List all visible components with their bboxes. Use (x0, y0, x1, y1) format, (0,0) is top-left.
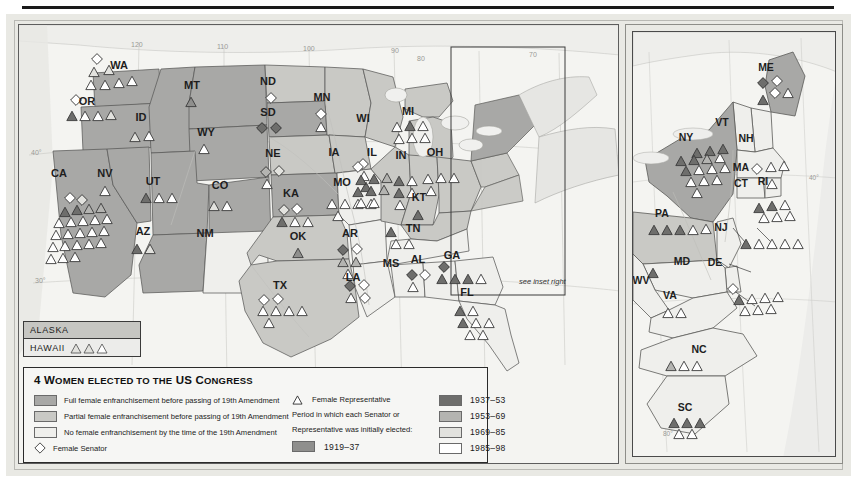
legend-item-representative: Female Representative (292, 392, 422, 407)
legend-column-symbols: Female Representative Period in which ea… (292, 392, 422, 454)
state-label-vt: VT (715, 116, 729, 128)
legend-title-text: WOMEN ELECTED TO THE US CONGRESS (44, 374, 253, 386)
state-label-sc: SC (678, 401, 693, 413)
svg-text:90: 90 (391, 47, 399, 54)
state-label-tx: TX (273, 279, 288, 291)
svg-text:70: 70 (529, 51, 537, 58)
legend-label-none: No female enfranchisement by the time of… (64, 428, 277, 437)
legend-item-none: No female enfranchisement by the time of… (34, 424, 284, 440)
map-page: 120 110 100 90 80 70 40° 30° (0, 0, 857, 483)
svg-text:30°: 30° (35, 277, 46, 284)
state-label-ca: CA (51, 167, 67, 179)
legend-label-1937-53: 1937–53 (470, 395, 506, 405)
state-label-ri: RI (758, 175, 769, 187)
top-rule (22, 6, 834, 9)
state-label-fl: FL (460, 286, 474, 298)
state-label-ar: AR (342, 227, 358, 239)
legend-label-full: Full female enfranchisement before passi… (64, 396, 279, 405)
triangle-icon (292, 395, 303, 405)
legend-period-1953: 1953–69 (439, 408, 549, 424)
state-label-ok: OK (290, 230, 307, 242)
state-label-in: IN (396, 149, 407, 161)
swatch-no-enfranchisement (34, 427, 57, 438)
state-label-nv: NV (97, 167, 113, 179)
state-label-oh: OH (427, 146, 444, 158)
legend-column-periods: 1937–53 1953–69 1969–85 1985–98 (439, 392, 549, 456)
state-label-mi: MI (402, 105, 414, 117)
svg-text:40°: 40° (809, 174, 819, 181)
state-label-sd: SD (260, 106, 275, 118)
legend-label-representative: Female Representative (312, 395, 391, 404)
svg-text:120: 120 (131, 41, 143, 48)
see-inset-note: see inset right (519, 277, 566, 286)
state-label-nj: NJ (714, 221, 728, 233)
state-label-ct: CT (734, 177, 749, 189)
diamond-icon (34, 442, 46, 454)
state-label-ut: UT (146, 175, 161, 187)
state-label-az: AZ (136, 225, 151, 237)
state-label-ms: MS (383, 257, 400, 269)
svg-text:100: 100 (303, 45, 315, 52)
state-label-il: IL (367, 146, 377, 158)
state-label-nc: NC (691, 343, 707, 355)
state-label-tn: TN (406, 222, 421, 234)
legend-label-senator: Female Senator (53, 444, 107, 453)
swatch-full-enfranchisement (34, 395, 57, 406)
hawaii-label: HAWAII (30, 343, 65, 353)
swatch-period-1985-98 (439, 443, 462, 454)
state-label-mn: MN (313, 91, 330, 103)
swatch-period-1937-53 (439, 395, 462, 406)
state-label-id: ID (136, 111, 147, 123)
legend-label-partial: Partial female enfranchisement before pa… (64, 412, 289, 421)
swatch-period-1953-69 (439, 411, 462, 422)
state-label-wv: WV (633, 274, 649, 286)
legend-column-fills: Full female enfranchisement before passi… (34, 392, 284, 456)
legend-period-text-1: Period in which each Senator or (292, 410, 400, 419)
swatch-period-1919-37 (292, 441, 315, 452)
state-label-me: ME (758, 61, 774, 73)
inset-map-svg: 40° 80° (633, 32, 836, 457)
state-label-al: AL (411, 253, 426, 265)
swatch-partial-enfranchisement (34, 411, 57, 422)
state-label-or: OR (79, 95, 96, 107)
state-label-ma: MA (733, 161, 750, 173)
state-label-nh: NH (738, 132, 753, 144)
legend-label-1969-85: 1969–85 (470, 427, 506, 437)
legend-period-line-1: Period in which each Senator or (292, 407, 422, 422)
hawaii-row: HAWAII (24, 339, 140, 356)
legend-period-1919: 1919–37 (292, 439, 422, 454)
state-label-kt: KT (412, 191, 427, 203)
legend-item-full: Full female enfranchisement before passi… (34, 392, 284, 408)
svg-text:110: 110 (217, 43, 228, 50)
svg-text:80°: 80° (663, 430, 673, 437)
legend-period-1937: 1937–53 (439, 392, 549, 408)
legend-item-partial: Partial female enfranchisement before pa… (34, 408, 284, 424)
legend-title-number: 4 (34, 374, 41, 386)
state-label-nm: NM (196, 227, 213, 239)
hawaii-symbols (70, 342, 114, 354)
state-label-co: CO (212, 179, 229, 191)
state-label-ga: GA (444, 249, 461, 261)
state-label-ia: IA (329, 146, 340, 158)
legend-label-1985-98: 1985–98 (470, 443, 506, 453)
svg-text:40°: 40° (31, 149, 42, 156)
inset-map-frame[interactable]: 40° 80° (632, 31, 836, 457)
legend-period-1985: 1985–98 (439, 440, 549, 456)
state-label-ny: NY (679, 131, 694, 143)
legend-period-line-2: Representative was initially elected: (292, 422, 422, 437)
alaska-row: ALASKA (24, 322, 140, 339)
state-label-mt: MT (184, 79, 200, 91)
state-label-wi: WI (356, 112, 369, 124)
state-label-mo: MO (333, 176, 351, 188)
state-label-nd: ND (260, 75, 276, 87)
legend-period-1969: 1969–85 (439, 424, 549, 440)
state-label-pa: PA (655, 207, 669, 219)
legend-label-1953-69: 1953–69 (470, 411, 506, 421)
alaska-hawaii-box: ALASKA HAWAII (23, 321, 141, 357)
state-label-la: LA (346, 271, 361, 283)
state-label-md: MD (674, 255, 691, 267)
legend-panel: 4 WOMEN ELECTED TO THE US CONGRESS Full … (23, 367, 488, 463)
state-label-wa: WA (110, 59, 128, 71)
state-label-de: DE (708, 256, 723, 268)
legend-title: 4 WOMEN ELECTED TO THE US CONGRESS (34, 374, 253, 386)
